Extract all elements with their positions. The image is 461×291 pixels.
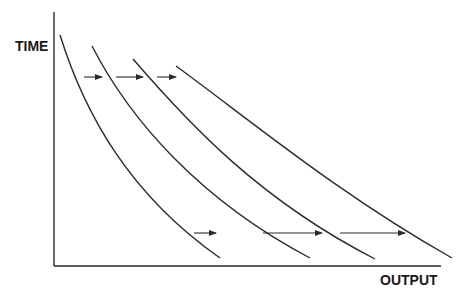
curve-3 [133, 59, 375, 259]
x-axis-label: OUTPUT [380, 272, 438, 288]
time-output-diagram [0, 0, 461, 291]
curves-group [60, 35, 452, 259]
curve-2 [92, 46, 310, 258]
arrows-group [84, 77, 405, 233]
y-axis-label: TIME [15, 38, 48, 54]
curve-1 [60, 35, 220, 258]
curve-4 [176, 66, 452, 258]
